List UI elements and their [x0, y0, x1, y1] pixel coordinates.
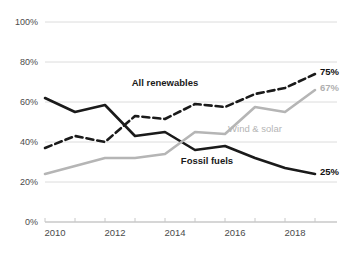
y-axis-tick-label: 0% — [25, 217, 38, 227]
end-value-label: 75% — [320, 66, 340, 77]
x-axis-tick-labels: 20102012201420162018 — [44, 227, 305, 238]
footnote-text — [2, 256, 202, 263]
y-axis-tick-label: 20% — [20, 177, 38, 187]
y-axis-tick-label: 80% — [20, 57, 38, 67]
series-annotation-label: Wind & solar — [228, 123, 282, 134]
x-axis-tick-label: 2012 — [104, 227, 125, 238]
chart-container: 0%20%40%60%80%100% 20102012201420162018 … — [0, 0, 350, 263]
x-axis-tick-label: 2016 — [224, 227, 245, 238]
y-axis-tick-label: 40% — [20, 137, 38, 147]
end-value-label: 25% — [320, 166, 340, 177]
y-axis-tick-labels: 0%20%40%60%80%100% — [15, 17, 38, 227]
series-annotation-label: All renewables — [132, 77, 199, 88]
x-axis-tick-label: 2018 — [284, 227, 305, 238]
end-value-labels: 75%67%25% — [320, 66, 340, 177]
x-axis-tick-label: 2014 — [164, 227, 185, 238]
series-annotations: All renewablesWind & solarFossil fuels — [132, 77, 282, 166]
y-axis-tick-label: 60% — [20, 97, 38, 107]
x-axis-tick-label: 2010 — [44, 227, 65, 238]
end-value-label: 67% — [320, 82, 340, 93]
series-annotation-label: Fossil fuels — [181, 155, 233, 166]
line-chart: 0%20%40%60%80%100% 20102012201420162018 … — [0, 0, 350, 263]
y-axis-tick-label: 100% — [15, 17, 38, 27]
